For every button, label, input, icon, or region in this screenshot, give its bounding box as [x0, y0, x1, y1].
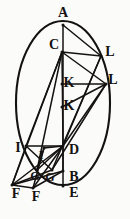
chord-A-L1: [63, 25, 101, 56]
label-l2: L: [108, 73, 117, 87]
vertex-d: [62, 145, 65, 148]
label-l1: L: [105, 45, 114, 59]
label-e: E: [69, 186, 78, 200]
vertex-l2: [105, 83, 108, 86]
label-b: B: [69, 170, 78, 184]
vertex-a: [62, 24, 65, 27]
vertex-i1: [25, 145, 28, 148]
label-g1: G: [30, 170, 39, 182]
label-k2: K: [64, 99, 75, 113]
vertex-l1: [100, 55, 103, 58]
geometric-figure: ACLLKKIIDGGBFFE: [0, 0, 130, 219]
label-k1: K: [64, 76, 75, 90]
label-f2: F: [32, 190, 41, 204]
label-i2: I: [39, 149, 44, 161]
label-c: C: [49, 38, 59, 52]
vertex-e: [62, 185, 65, 188]
label-d: D: [69, 143, 79, 157]
label-f1: F: [12, 187, 21, 201]
vertex-c: [61, 51, 64, 54]
vertex-b: [62, 170, 65, 173]
label-a: A: [58, 6, 68, 20]
label-i1: I: [15, 141, 20, 155]
label-g2: G: [45, 171, 54, 183]
